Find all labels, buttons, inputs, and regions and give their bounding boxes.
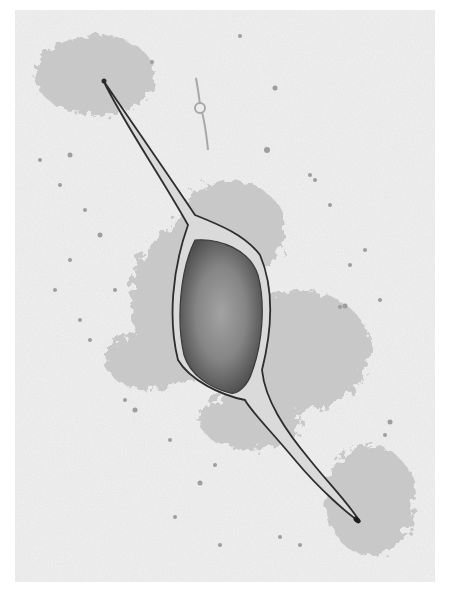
cell-body [180,240,262,393]
upper-process-tip [102,79,107,84]
cell-illustration [0,0,460,604]
